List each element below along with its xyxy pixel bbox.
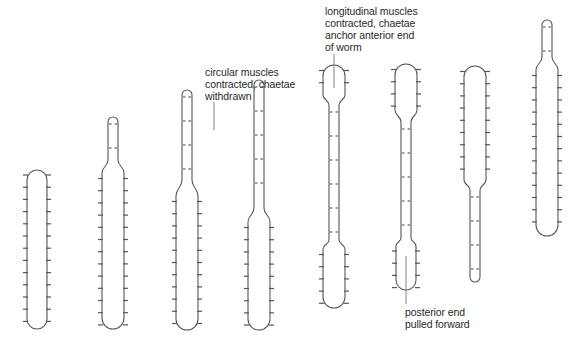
worm-body-outline [464,66,486,282]
annotation-line: of worm [325,41,418,53]
worm-stage-1 [23,170,51,329]
annotation-line: longitudinal muscles [325,5,418,17]
worm-stage-3 [172,90,202,330]
worm-stage-7 [460,66,490,282]
worm-locomotion-diagram [0,0,586,346]
annotation-line: circular muscles [205,66,295,78]
worm-stage-4 [244,80,274,330]
annotation-line: withdrawn [205,90,295,102]
worm-stage-2 [98,117,128,329]
worm-body-outline [248,80,270,330]
circular-muscles-label: circular musclescontracted, chaetaewithd… [205,66,295,102]
worm-body-outline [102,117,124,329]
annotation-line: pulled forward [405,318,470,330]
worm-stage-8 [532,20,562,236]
annotation-line: anchor anterior end [325,29,418,41]
posterior-end-label: posterior endpulled forward [405,306,470,330]
annotation-line: contracted, chaetae [205,78,295,90]
worm-body-outline [27,170,47,329]
annotation-line: contracted, chaetae [325,17,418,29]
longitudinal-muscles-label: longitudinal musclescontracted, chaetaea… [325,5,418,53]
worm-body-outline [323,65,345,308]
worm-body-outline [536,20,558,236]
worm-body-outline [176,90,198,330]
worm-stage-5 [319,65,349,308]
annotation-line: posterior end [405,306,470,318]
